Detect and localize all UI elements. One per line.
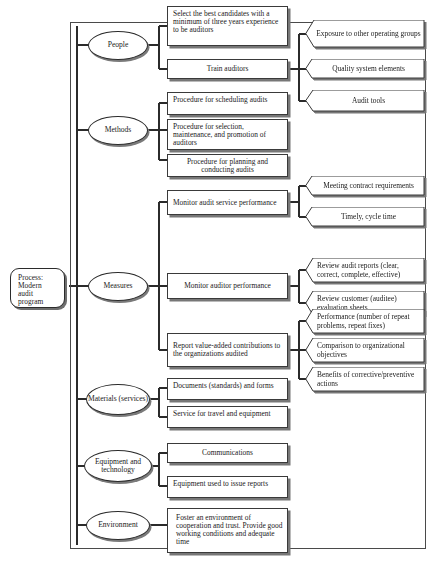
node-service-travel-equipment: Service for travel and equipment [167,406,288,428]
node-documents-standards-forms: Documents (standards) and forms [167,378,288,400]
branch-label-methods: Methods [105,126,132,134]
node-benefits-corrective-preventive: Benefits of corrective/preventive action… [305,367,425,392]
node-label-communications: Communications [202,449,253,457]
node-label-monitor-auditor-performance: Monitor auditor performance [184,282,271,290]
node-label-report-value-added-contributions: Report value-added contributions to the … [173,342,283,358]
node-quality-system-elements: Quality system elements [305,59,425,79]
node-comparison-organizational-objectives: Comparison to organizational objectives [305,338,425,363]
node-label-service-travel-equipment: Service for travel and equipment [173,410,283,418]
node-audit-tools: Audit tools [305,90,425,112]
node-label-select-best-candidates: Select the best candidates with a minimu… [173,10,283,34]
node-timely-cycle-time: Timely, cycle time [305,207,425,227]
root-node-process-modern-audit-program: Process: Modern audit program [10,268,65,308]
branch-node-methods: Methods [88,116,148,145]
branch-label-measures: Measures [103,282,132,290]
node-performance-repeat-problems: Performance (number of repeat problems, … [305,309,425,334]
node-label-documents-standards-forms: Documents (standards) and forms [173,382,283,390]
node-label-procedure-selection-maintenance: Procedure for selection, maintenance, an… [173,123,283,147]
node-select-best-candidates: Select the best candidates with a minimu… [167,6,288,46]
node-train-auditors: Train auditors [167,59,288,79]
node-equipment-issue-reports: Equipment used to issue reports [167,476,288,498]
node-monitor-auditor-performance: Monitor auditor performance [167,273,288,299]
branch-label-equipment-technology: Equipment and technology [85,458,151,474]
node-label-procedure-scheduling-audits: Procedure for scheduling audits [173,96,283,104]
node-foster-environment: Foster an environment of cooperation and… [167,508,288,553]
branch-label-environment: Environment [98,521,138,529]
root-node-label: Process: Modern audit program [18,274,58,306]
node-review-audit-reports: Review audit reports (clear, correct, co… [305,258,425,283]
branch-node-environment: Environment [86,511,150,540]
node-label-monitor-audit-service-performance: Monitor audit service performance [173,199,276,207]
branch-node-materials-services: Materials (services) [86,384,150,415]
node-procedure-planning-conducting: Procedure for planning and conducting au… [167,154,288,177]
node-monitor-audit-service-performance: Monitor audit service performance [167,190,288,215]
node-communications: Communications [167,443,288,463]
node-procedure-scheduling-audits: Procedure for scheduling audits [167,92,288,115]
node-report-value-added-contributions: Report value-added contributions to the … [167,333,288,367]
branch-node-measures: Measures [88,272,148,301]
branch-label-people: People [108,41,129,49]
node-label-procedure-planning-conducting: Procedure for planning and conducting au… [174,158,281,174]
node-meeting-contract-requirements: Meeting contract requirements [305,176,425,196]
node-procedure-selection-maintenance: Procedure for selection, maintenance, an… [167,119,288,150]
branch-node-equipment-technology: Equipment and technology [84,450,152,482]
branch-node-people: People [88,31,148,60]
node-label-equipment-issue-reports: Equipment used to issue reports [173,480,283,488]
node-label-foster-environment: Foster an environment of cooperation and… [176,514,283,546]
diagram-canvas: Process: Modern audit program People Met… [0,0,431,564]
node-exposure-other-groups: Exposure to other operating groups [305,20,425,48]
branch-label-materials-services: Materials (services) [88,395,148,403]
node-label-train-auditors: Train auditors [207,65,249,73]
